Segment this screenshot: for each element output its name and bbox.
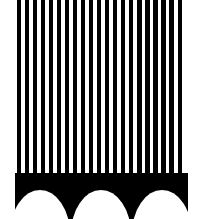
stripe [105, 0, 109, 173]
arch [71, 190, 131, 219]
figure-root [0, 0, 203, 219]
stripe [137, 0, 141, 173]
stripe [25, 0, 29, 173]
stripe [178, 0, 182, 173]
stripe [49, 0, 53, 173]
stripe [89, 0, 93, 173]
arch [132, 190, 188, 219]
stripe [57, 0, 61, 173]
stripe [81, 0, 85, 173]
stripe [65, 0, 69, 173]
stripe [129, 0, 133, 173]
outer-frame [15, 0, 188, 219]
stripe [33, 0, 37, 173]
stripe [17, 0, 21, 173]
stripe [169, 0, 173, 173]
stripe [161, 0, 165, 173]
arch-band [15, 173, 188, 219]
vertical-stripe-field [15, 0, 188, 173]
stripe [113, 0, 117, 173]
arch [15, 190, 70, 219]
stripe [73, 0, 77, 173]
stripe [153, 0, 157, 173]
stripe [41, 0, 45, 173]
stripe [121, 0, 125, 173]
stripe [97, 0, 101, 173]
stripe [145, 0, 149, 173]
